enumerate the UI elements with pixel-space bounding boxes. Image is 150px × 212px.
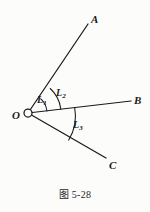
arc-label-l3-subscript: 3 (79, 124, 83, 132)
figure-canvas (0, 0, 150, 212)
arc-label-l1: L1 (37, 95, 47, 107)
arc-label-l3: L3 (73, 120, 83, 132)
arc-label-l2: L2 (56, 88, 66, 100)
vertex-O-marker (24, 109, 32, 117)
figure-caption: 图 5-28 (0, 186, 150, 201)
arc-label-l1-subscript: 1 (43, 99, 47, 107)
geometry-figure: A B C O L1 L2 L3 图 5-28 (0, 0, 150, 212)
arc-label-l2-subscript: 2 (62, 92, 66, 100)
point-label-a: A (91, 14, 98, 25)
point-label-o: O (12, 110, 20, 121)
ray-OC-line (28, 113, 106, 158)
point-label-c: C (109, 160, 116, 171)
point-label-b: B (134, 95, 141, 106)
